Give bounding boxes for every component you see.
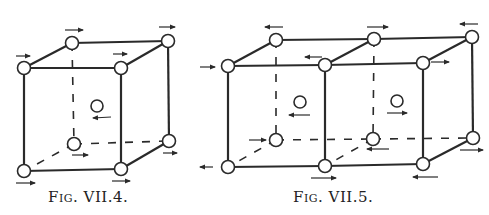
cube-edge (24, 169, 121, 171)
lattice-atom-bbl (68, 138, 81, 151)
lattice-atom-fbr (417, 158, 430, 171)
lattice-atom-ftl (222, 60, 235, 73)
cube-edge (325, 63, 423, 65)
cube-edge (325, 39, 374, 65)
spin-arrow-left-icon (93, 117, 111, 118)
lattice-atom-bbr (163, 135, 176, 148)
lattice-atom-btm (368, 33, 381, 46)
lattice-atom-ftm (319, 59, 332, 72)
body-center-atom (391, 95, 403, 107)
lattice-atom-btr (162, 35, 175, 48)
lattice-atom-fbm (319, 160, 332, 173)
hidden-edge (373, 39, 374, 139)
figure-vii-4-cube-lattice (16, 27, 177, 183)
hidden-edge (325, 139, 373, 166)
caption-fig-vii-5: Fig. VII.5. (293, 188, 373, 206)
cube-edge (423, 37, 472, 63)
lattice-atom-ftr (417, 57, 430, 70)
body-center-atom (294, 96, 306, 108)
cube-edge (121, 141, 169, 169)
cube-edge (72, 41, 168, 43)
cube-edge (423, 138, 473, 164)
cube-edge (168, 41, 169, 141)
caption-text: Fig. VII.4. (48, 188, 128, 206)
caption-fig-vii-4: Fig. VII.4. (48, 188, 128, 206)
cube-edge (24, 43, 72, 68)
cube-edge (325, 164, 423, 166)
hidden-edge (24, 144, 74, 171)
lattice-atom-bbl (270, 134, 283, 147)
lattice-atom-btl (270, 34, 283, 47)
figure-vii-5-double-cube-lattice (200, 24, 483, 178)
cube-edge (276, 39, 374, 40)
cube-edge (472, 37, 473, 138)
lattice-atom-ftr (115, 62, 128, 75)
lattice-atom-bbr (467, 132, 480, 145)
cube-edge (121, 41, 168, 68)
body-center-atom (91, 100, 103, 112)
caption-text: Fig. VII.5. (293, 188, 373, 206)
hidden-edge (228, 140, 276, 167)
cube-edge (228, 166, 325, 167)
lattice-atom-btl (66, 37, 79, 50)
lattice-atom-fbr (115, 163, 128, 176)
lattice-atom-ftl (18, 62, 31, 75)
lattice-atom-fbl (222, 161, 235, 174)
lattice-atom-fbl (18, 165, 31, 178)
cube-edge (374, 37, 472, 39)
lattice-atom-bbm (367, 133, 380, 146)
lattice-atom-btr (466, 31, 479, 44)
cube-edge (228, 40, 276, 66)
cube-edge (228, 65, 325, 66)
diagram-canvas (0, 0, 489, 215)
hidden-edge (72, 43, 74, 144)
